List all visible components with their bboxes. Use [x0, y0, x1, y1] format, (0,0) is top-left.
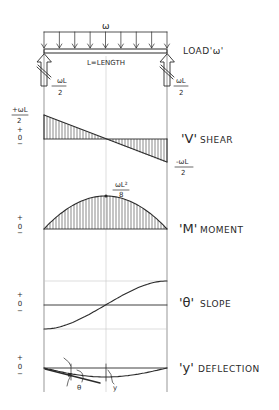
moment-symbol: 'M': [179, 221, 197, 236]
load-arrows: [42, 32, 170, 48]
shear-line: [44, 115, 167, 162]
slope-sign-minus: −: [17, 307, 23, 315]
left-reaction-num: ωL: [57, 77, 67, 85]
slope-sign-plus: +: [17, 291, 23, 299]
slope-section: + 0 − 'θ' SLOPE: [17, 281, 231, 329]
right-reaction-den: 2: [179, 89, 183, 97]
deflection-y-label: y: [113, 384, 117, 392]
shear-bottom-value-den: 2: [181, 169, 185, 177]
moment-label: MOMENT: [200, 225, 244, 235]
moment-hatching: [47, 196, 164, 229]
beam-length-label: L=LENGTH: [87, 59, 125, 67]
load-arrow: [57, 32, 62, 48]
beam: [44, 49, 167, 53]
load-arrow: [103, 32, 108, 48]
load-symbol: ω: [102, 21, 110, 31]
shear-top-value-num: +ωL: [12, 106, 28, 114]
load-arrow: [42, 32, 47, 48]
load-section: ω L=LENGTH LOAD'ω' ωL 2 ωL 2: [37, 21, 224, 97]
load-arrow: [149, 32, 154, 48]
slope-symbol: 'θ': [179, 295, 194, 310]
moment-section: ωL² 8 + 0 − 'M' MOMENT: [17, 181, 243, 237]
beam-diagram: ω L=LENGTH LOAD'ω' ωL 2 ωL 2 +ωL 2 + 0 −: [0, 0, 279, 410]
shear-symbol: 'V': [181, 131, 197, 146]
deflection-symbol: 'y': [179, 360, 194, 375]
shear-section: +ωL 2 + 0 − 'V' SHEAR -ωL 2: [12, 106, 233, 177]
deflection-theta-label: θ: [77, 384, 81, 392]
load-label: LOAD'ω': [183, 46, 224, 56]
load-arrow: [118, 32, 123, 48]
shear-bottom-value-num: -ωL: [176, 158, 188, 166]
load-arrow: [134, 32, 139, 48]
load-arrow: [165, 32, 170, 48]
right-reaction-num: ωL: [176, 77, 186, 85]
shear-sign-plus: +: [17, 126, 23, 134]
load-arrow: [72, 32, 77, 48]
shear-label: SHEAR: [200, 135, 233, 145]
shear-top-value-den: 2: [17, 117, 21, 125]
slope-label: SLOPE: [200, 299, 231, 309]
deflection-sign-plus: +: [17, 354, 23, 362]
deflection-section: θ y + 0 − 'y' DEFLECTION: [17, 354, 260, 392]
moment-sign-plus: +: [17, 214, 23, 222]
moment-peak-num: ωL²: [115, 181, 128, 189]
moment-sign-minus: −: [17, 229, 23, 237]
moment-curve: [44, 196, 167, 229]
moment-peak-dot: [104, 194, 107, 197]
deflection-sign-minus: −: [17, 370, 23, 378]
deflection-curve: [44, 368, 167, 377]
shear-sign-minus: −: [17, 140, 23, 148]
deflection-label: DEFLECTION: [198, 364, 260, 374]
load-arrow: [88, 32, 93, 48]
left-reaction-den: 2: [58, 89, 62, 97]
